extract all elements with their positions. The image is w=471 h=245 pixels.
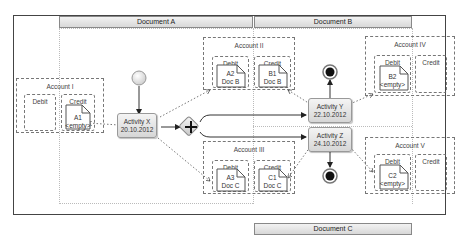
account-i: Account I Debit Credit A1 <empty> xyxy=(16,78,104,133)
account-title: Account IV xyxy=(366,41,454,48)
document-label: A3 Doc C xyxy=(213,174,248,190)
start-event-icon xyxy=(132,71,146,85)
account-title: Account V xyxy=(366,142,454,149)
debit-label: Debit xyxy=(25,98,55,105)
end-event-z-icon xyxy=(323,169,337,183)
account-ii: Account II Debit A2 Doc B Credit B1 Doc … xyxy=(203,37,295,90)
end-event-y-icon xyxy=(323,65,337,79)
debit-side: Debit A3 Doc C xyxy=(212,160,249,192)
assoc-y-b1 xyxy=(288,90,310,104)
credit-label: Credit xyxy=(416,158,446,165)
parallel-gateway-icon xyxy=(179,116,199,136)
activity-x[interactable]: Activity X 20.10.2012 xyxy=(117,113,157,138)
credit-side: Credit A1 <empty> xyxy=(61,94,95,131)
debit-side: Debit xyxy=(24,94,56,131)
account-title: Account III xyxy=(204,146,294,153)
debit-side: Debit A2 Doc B xyxy=(212,56,249,88)
activity-y[interactable]: Activity Y 22.10.2012 xyxy=(308,98,352,123)
document-label: A2 Doc B xyxy=(213,70,248,86)
account-iii: Account III Debit A3 Doc C Credit C1 Doc… xyxy=(203,141,295,194)
activity-date: 20.10.2012 xyxy=(118,126,156,134)
activity-name: Activity Z xyxy=(309,132,351,140)
document-label: B1 Doc B xyxy=(255,70,290,86)
account-v: Account V Debit C2 <empty> Credit xyxy=(365,137,455,194)
credit-side: Credit xyxy=(415,154,447,191)
credit-label: Credit xyxy=(416,59,446,66)
document-label: A1 <empty> xyxy=(62,114,94,130)
activity-z[interactable]: Activity Z 24.10.2012 xyxy=(308,127,352,152)
document-label: C2 <empty> xyxy=(375,172,410,188)
document-label: B2 <empty> xyxy=(375,73,410,89)
credit-side: Credit C1 Doc C xyxy=(254,160,291,192)
debit-side: Debit B2 <empty> xyxy=(374,55,411,93)
account-title: Account II xyxy=(204,42,294,49)
document-label: C1 Doc C xyxy=(255,174,290,190)
diagram-canvas: Document A Document B Document C xyxy=(0,0,471,245)
activity-date: 22.10.2012 xyxy=(309,111,351,119)
flow-gateway-to-z xyxy=(200,132,306,137)
assoc-x-a2 xyxy=(160,90,210,117)
activity-name: Activity Y xyxy=(309,103,351,111)
credit-side: Credit xyxy=(415,55,447,93)
debit-side: Debit C2 <empty> xyxy=(374,154,411,191)
account-title: Account I xyxy=(17,83,103,90)
account-iv: Account IV Debit B2 <empty> Credit xyxy=(365,36,455,96)
activity-date: 24.10.2012 xyxy=(309,140,351,148)
credit-side: Credit B1 Doc B xyxy=(254,56,291,88)
flow-gateway-to-y xyxy=(200,115,306,122)
activity-name: Activity X xyxy=(118,118,156,126)
